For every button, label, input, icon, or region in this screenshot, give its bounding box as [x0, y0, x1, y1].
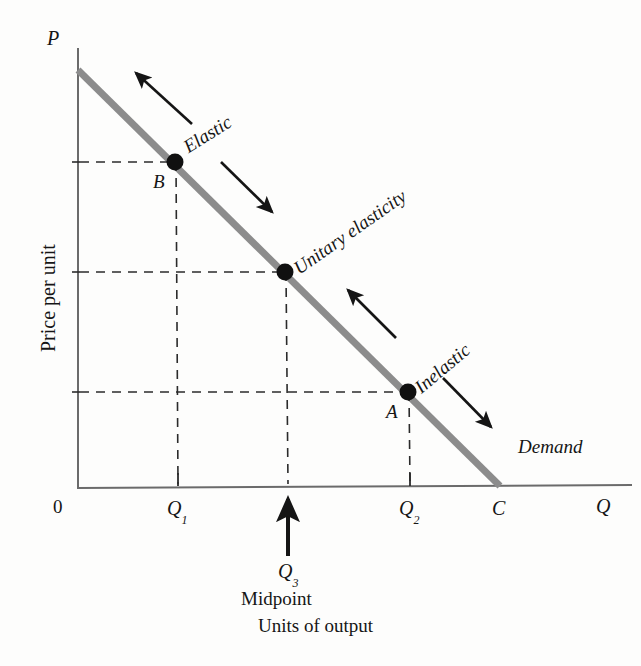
x-tick-label-q2-sub: 2	[413, 513, 419, 527]
x-tick-label-q3-base: Q	[278, 560, 292, 582]
x-tick-label-q1: Q1	[167, 498, 187, 522]
x-axis-symbol: Q	[596, 496, 610, 516]
x-axis-line	[78, 485, 632, 488]
x-tick-label-q2: Q2	[399, 498, 419, 522]
demand-curve-label: Demand	[518, 437, 582, 456]
dashed-quantity-line-q3	[286, 272, 288, 484]
point-b-marker	[167, 154, 184, 171]
inelastic-up-arrow	[348, 290, 396, 338]
curve-intercept-label-c: C	[492, 498, 505, 518]
dashed-quantity-line-q2	[409, 392, 410, 484]
elasticity-figure: P Q 0 Price per unit Units of output Q1 …	[0, 0, 641, 666]
x-tick-label-q3: Q3	[278, 561, 298, 585]
point-a-label: A	[386, 402, 398, 421]
midpoint-caption: Midpoint	[241, 589, 312, 608]
inelastic-down-arrow	[443, 378, 491, 427]
elastic-up-arrow	[136, 73, 192, 124]
x-tick-label-q1-base: Q	[167, 497, 181, 519]
x-tick-label-q1-sub: 1	[181, 513, 187, 527]
x-axis-title: Units of output	[258, 616, 373, 635]
point-b-label: B	[153, 172, 165, 191]
point-midpoint-marker	[277, 264, 294, 281]
origin-label: 0	[53, 497, 63, 516]
y-axis-title: Price per unit	[38, 244, 58, 352]
dashed-quantity-line-q1	[176, 162, 178, 484]
y-axis-symbol: P	[47, 28, 59, 48]
elastic-down-arrow	[221, 162, 272, 212]
figure-canvas	[0, 0, 641, 666]
x-tick-label-q2-base: Q	[399, 497, 413, 519]
